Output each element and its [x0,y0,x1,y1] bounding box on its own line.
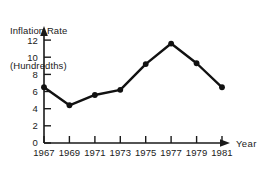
data-point-1969 [67,102,73,108]
x-axis-ticks [44,136,222,143]
x-axis-title: Year [236,138,257,149]
data-point-1981 [219,84,225,90]
y-tick-label-10: 10 [27,52,38,63]
x-axis-tick-labels: 1967 1969 1971 1973 1975 1977 1979 1981 [33,147,233,158]
x-tick-label-1979: 1979 [186,147,208,158]
data-point-1971 [92,92,98,98]
x-tick-label-1975: 1975 [135,147,157,158]
y-tick-label-4: 4 [33,103,38,114]
x-tick-label-1981: 1981 [211,147,233,158]
x-tick-label-1977: 1977 [160,147,182,158]
data-series-line [44,44,222,106]
inflation-rate-line-chart: Inflation Rate (Hundredths) 0 2 4 [0,0,267,170]
x-tick-label-1967: 1967 [33,147,55,158]
data-point-1977 [168,41,174,47]
x-axis [44,139,230,147]
y-axis-arrowhead-icon [40,26,48,36]
data-point-1967 [41,84,47,90]
data-point-markers [41,41,225,109]
y-tick-label-6: 6 [33,86,38,97]
data-point-1979 [194,60,200,66]
y-tick-label-2: 2 [33,120,38,131]
x-tick-label-1969: 1969 [59,147,81,158]
chart-plot-area: 0 2 4 6 8 10 12 1967 1969 1971 1973 1975 [0,0,267,170]
data-point-1973 [117,87,123,93]
y-tick-label-12: 12 [27,35,38,46]
y-axis-tick-labels: 0 2 4 6 8 10 12 [27,35,38,149]
x-tick-label-1973: 1973 [110,147,132,158]
y-tick-label-8: 8 [33,69,38,80]
data-point-1975 [143,61,149,67]
x-tick-label-1971: 1971 [84,147,106,158]
